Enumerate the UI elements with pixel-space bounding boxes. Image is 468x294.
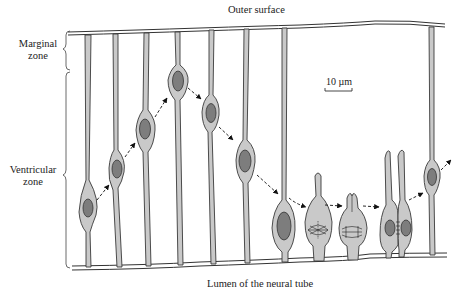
arrow-7 — [289, 198, 306, 207]
arrow-5 — [219, 127, 233, 140]
arrow-9 — [363, 206, 379, 207]
ventricular-zone-label: Ventricular zone — [2, 164, 64, 188]
daughter-cells-cytokinesis — [380, 150, 412, 258]
arrow-2 — [125, 143, 135, 157]
arrow-4 — [188, 88, 201, 99]
marginal-zone-line1: Marginal — [10, 38, 66, 50]
marginal-zone-line2: zone — [10, 50, 66, 62]
neuroepithelial-cell-5 — [202, 30, 219, 264]
ventricular-zone-line1: Ventricular — [2, 164, 64, 176]
neuroepithelial-cell-3 — [136, 33, 155, 266]
scale-bar — [325, 88, 352, 91]
arrow-10 — [409, 193, 423, 200]
outer-surface-label: Outer surface — [228, 4, 285, 16]
lumen-label: Lumen of the neural tube — [207, 278, 313, 290]
neural-tube-diagram — [0, 0, 468, 294]
neuroepithelial-cell-4 — [168, 32, 188, 265]
arrow-3 — [155, 98, 167, 117]
ventricular-zone-line2: zone — [2, 176, 64, 188]
mitotic-cell-anaphase — [339, 193, 367, 260]
outer-surface-boundary — [68, 21, 445, 35]
neuroepithelial-cell-2 — [109, 34, 125, 267]
arrow-1 — [97, 185, 109, 200]
arrow-6 — [257, 175, 278, 194]
marginal-zone-label: Marginal zone — [10, 38, 66, 62]
neuroepithelial-cell-6 — [236, 29, 255, 263]
scale-bar-label: 10 µm — [326, 76, 352, 88]
neuroepithelial-cell-11 — [424, 27, 440, 255]
mitotic-cell-metaphase — [305, 173, 332, 261]
arrow-11 — [441, 160, 451, 170]
neuroepithelial-cell-7 — [272, 28, 295, 262]
ventricular-zone-brace — [63, 72, 70, 268]
neuroepithelial-cell-1 — [79, 35, 97, 267]
